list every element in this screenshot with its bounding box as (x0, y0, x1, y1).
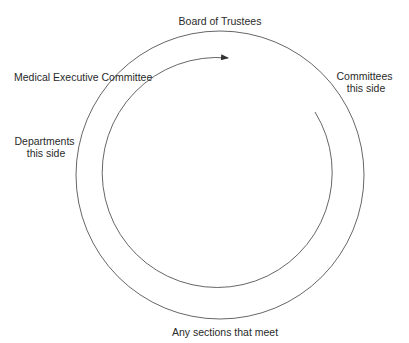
label-committees-line2: this side (347, 82, 386, 94)
label-departments-line1: Departments (14, 135, 74, 147)
label-any-sections-that-meet: Any sections that meet (172, 326, 278, 338)
label-committees-line1: Committees (337, 70, 393, 82)
label-committees-this-side: Committees this side (337, 70, 396, 94)
inner-flow-arrow (102, 57, 332, 287)
label-medical-executive-committee: Medical Executive Committee (14, 71, 152, 83)
label-board-of-trustees: Board of Trustees (179, 15, 262, 27)
cycle-diagram: Board of Trustees Medical Executive Comm… (0, 0, 409, 343)
label-departments-this-side: Departments this side (14, 135, 77, 159)
label-departments-line2: this side (27, 147, 66, 159)
